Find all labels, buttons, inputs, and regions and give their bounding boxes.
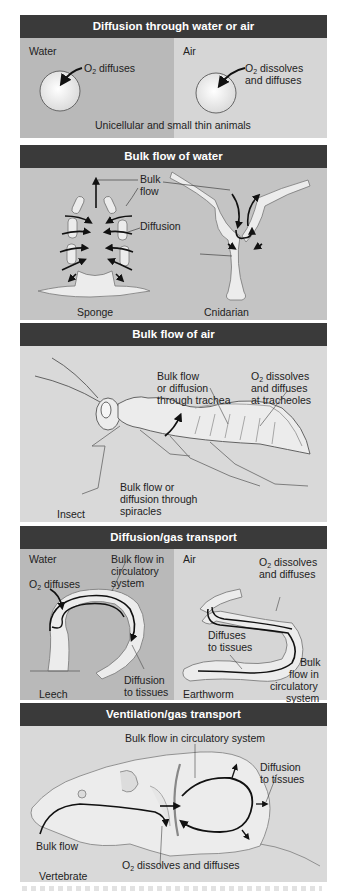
diffusion-label: Diffusion <box>140 220 181 232</box>
bulk-flow-label-2: flow <box>140 185 159 197</box>
sponge-label: Sponge <box>77 306 113 318</box>
bulk-flow-circ-label-3: system <box>111 577 144 589</box>
panel-body: Water Air O2 diffuses O2 dissolves and d… <box>20 38 327 138</box>
vertebrate-label: Vertebrate <box>39 870 87 882</box>
trachea-label-3: through trachea <box>157 394 231 406</box>
spiracles-label-3: spiracles <box>120 505 161 517</box>
circulatory-label: Bulk flow in circulatory system <box>125 732 265 744</box>
insect-label: Insect <box>57 508 85 520</box>
panel-body: Bulk flow or diffusion through trachea O… <box>20 346 327 522</box>
panel-body: Water Air O2 diffuses Bulk flow in circu… <box>20 549 327 700</box>
panel-title: Diffusion through water or air <box>20 15 327 38</box>
o2-diffuses-label: O2 diffuses <box>29 578 80 594</box>
panel-bulk-flow-air: Bulk flow of air <box>20 323 327 522</box>
sponge-icon <box>38 195 150 297</box>
bulk-flow-circ-label-2: circulatory <box>111 565 159 577</box>
spiracles-label-1: Bulk flow or <box>120 481 174 493</box>
leech-label: Leech <box>39 688 68 700</box>
bulk-flow-label: Bulk flow <box>36 840 78 852</box>
panel-diffusion-water-air: Diffusion through water or air Water Air… <box>20 15 327 138</box>
panel-ventilation-gas-transport: Ventilation/gas transport <box>20 703 327 882</box>
o2-dissolves-label: O2 dissolves and diffuses <box>122 859 240 875</box>
diffusion-tissues-label-1: Diffusion <box>260 761 301 773</box>
earthworm-o2-label-2: and diffuses <box>259 568 315 580</box>
panel-body: Bulk flow in circulatory system Diffusio… <box>20 726 327 882</box>
earthworm-bulk-label-3: circulatory <box>270 680 318 692</box>
trachea-label-2: or diffusion <box>157 382 208 394</box>
panel-title: Ventilation/gas transport <box>20 703 327 726</box>
diffusion-tissues-label-2: to tissues <box>124 686 168 698</box>
panel-title: Bulk flow of water <box>20 145 327 168</box>
tracheoles-label-2: and diffuses <box>251 382 307 394</box>
spiracles-label-2: diffusion through <box>120 493 197 505</box>
diffusion-tissues-label-2: to tissues <box>260 773 304 785</box>
leech-icon <box>48 589 145 679</box>
bulk-flow-label: Bulk <box>140 173 160 185</box>
earthworm-bulk-label-1: Bulk <box>300 656 320 668</box>
water-label: Water <box>29 553 57 565</box>
panel-diffusion-gas-transport: Diffusion/gas transport Water Air O2 dif… <box>20 526 327 700</box>
trachea-label-1: Bulk flow <box>157 370 199 382</box>
cnidarian-icon <box>170 172 310 300</box>
sponge-cnidarian-illustration <box>20 168 327 320</box>
diffusion-tissues-label-1: Diffusion <box>124 674 165 686</box>
air-label: Air <box>183 45 196 57</box>
cropped-caption-line <box>22 886 322 891</box>
air-label: Air <box>183 553 196 565</box>
diffuses-tissues-label-1: Diffuses <box>208 629 246 641</box>
panel-body: Bulk flow Diffusion Sponge Cnidarian <box>20 168 327 320</box>
panel-bulk-flow-water: Bulk flow of water <box>20 145 327 320</box>
diffuses-tissues-label-2: to tissues <box>208 641 252 653</box>
panel-title: Bulk flow of air <box>20 323 327 346</box>
panel-title: Diffusion/gas transport <box>20 526 327 549</box>
o2-diffuses-label: O2 diffuses <box>84 62 135 78</box>
cnidarian-label: Cnidarian <box>204 306 249 318</box>
and-diffuses-label: and diffuses <box>245 74 301 86</box>
unicellular-caption: Unicellular and small thin animals <box>95 119 251 131</box>
water-label: Water <box>29 45 57 57</box>
tracheoles-label-3: at tracheoles <box>251 394 311 406</box>
earthworm-bulk-label-2: flow in <box>289 668 319 680</box>
earthworm-label: Earthworm <box>183 688 234 700</box>
bulk-flow-circ-label-1: Bulk flow in <box>111 553 164 565</box>
